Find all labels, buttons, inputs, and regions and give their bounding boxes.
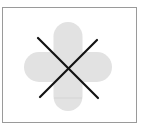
crossed-out-plus-icon [0,0,146,128]
